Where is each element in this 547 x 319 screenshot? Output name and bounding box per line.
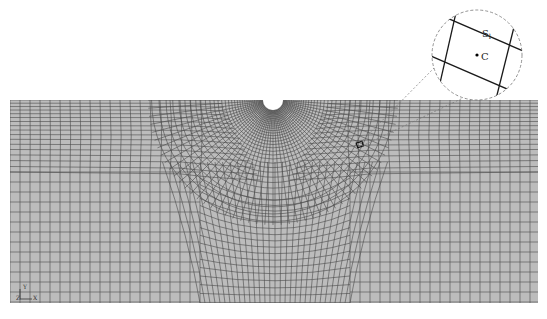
mesh-canvas: CSl YZX — [0, 0, 547, 319]
mesh-figure: CSl YZX S C Y — [0, 0, 547, 319]
svg-text:C: C — [481, 51, 489, 62]
svg-text:Z: Z — [16, 294, 20, 301]
fe-mesh — [10, 100, 538, 303]
svg-text:X: X — [33, 294, 38, 301]
